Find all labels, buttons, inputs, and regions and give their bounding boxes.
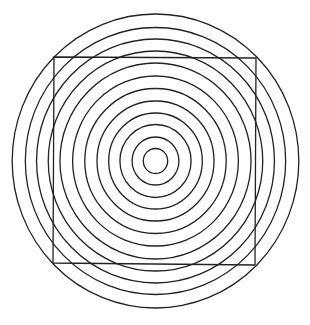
concentric-circles-diagram [0,0,310,325]
circle-ring-4 [109,113,203,209]
circle-ring-5 [97,101,214,221]
circle-ring-8 [60,63,251,259]
circle-ring-6 [85,89,226,234]
circle-ring-2 [132,137,179,185]
circle-ring-9 [48,51,263,271]
circle-ring-1 [143,149,167,174]
circle-ring-11 [25,28,285,295]
circle-ring-3 [120,125,191,198]
